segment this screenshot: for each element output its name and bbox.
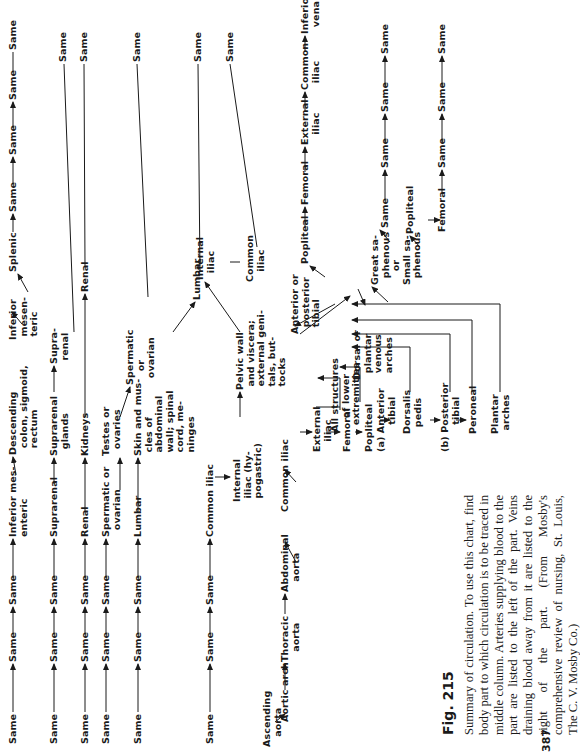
figure-label: Fig. 215	[440, 671, 456, 735]
popliteal-artery: Popliteal	[364, 404, 375, 452]
external-iliac-vein: External iliac	[300, 99, 321, 145]
dorsalis-pedis: Dorsalis pedis	[402, 390, 423, 434]
row1-vein-same-1: Same	[8, 182, 19, 212]
row1-artery-3: Same	[8, 575, 19, 605]
row4-artery-1: Same	[101, 714, 112, 744]
row6-artery-1: Same	[205, 714, 216, 744]
row2-artery-3: Same	[49, 575, 60, 605]
row6-internal-iliac-artery: Internal iliac (hy- pogastric)	[232, 443, 264, 502]
row2-artery-2: Same	[49, 632, 60, 662]
page-number: 387	[540, 729, 553, 752]
aortic-arch: Aortic arch	[280, 662, 291, 722]
posterior-tibial-artery: (b) Posterior tibial	[440, 383, 461, 452]
row6-artery-2: Same	[205, 632, 216, 662]
femoral-vein: Femoral	[300, 161, 311, 205]
row2-suprarenal-glands: Suprarenal glands	[49, 396, 70, 456]
row3-renal-vein: Renal	[80, 261, 91, 292]
row3-renal-artery: Renal	[80, 506, 91, 537]
row1-descending-colon: Descending colon, sigmoid, rectum	[8, 365, 40, 455]
row4-artery-2: Same	[101, 632, 112, 662]
row6-common-iliac-artery: Common iliac	[205, 464, 216, 537]
row4-artery-3: Same	[101, 575, 112, 605]
inferior-vena-cava: Inferior vena cava	[300, 0, 321, 34]
row4-spermatic-vein: Spermatic or ovarian	[125, 330, 157, 385]
figure-caption: Summary of circulation. To use this char…	[462, 495, 580, 735]
row1-artery-1: Same	[8, 714, 19, 744]
anterior-tibial-artery: (a) Anterior tibial	[376, 388, 397, 452]
anterior-posterior-tibial-vein: Anterior or posterior tibial	[290, 274, 322, 334]
saphenous-same-3: Same	[380, 82, 391, 112]
row6-common-iliac-vein: Common iliac	[245, 235, 266, 282]
small-saphenous-same-1: Same	[437, 138, 448, 168]
row6-artery-3: Same	[205, 575, 216, 605]
row1-vein-same-3: Same	[8, 70, 19, 100]
row5-skin-muscles: Skin and mus- cles of abdominal wall; sp…	[133, 379, 196, 456]
row5-vein-same: Same	[193, 32, 204, 62]
row6-vein-same: Same	[225, 32, 236, 62]
great-small-saphenous: Great sa- phenous or Small sa- phenous	[370, 232, 423, 285]
row2-suprarenal-artery: Suprarenal	[49, 477, 60, 537]
small-saphenous-femoral: Femoral	[437, 188, 448, 232]
saphenous-same-2: Same	[380, 138, 391, 168]
row4-vein-same: Same	[132, 32, 143, 62]
row5-lumbar-artery: Lumbar	[133, 496, 144, 537]
row5-artery-3: Same	[133, 575, 144, 605]
row6-pelvic-wall: Pelvic wall and viscera; external geni- …	[235, 310, 288, 390]
row3-vein-same: Same	[79, 32, 90, 62]
row2-vein-same: Same	[58, 32, 69, 62]
plantar-arches-artery: Plantar arches	[490, 394, 511, 434]
row3-artery-2: Same	[80, 632, 91, 662]
popliteal-vein: Popliteal	[300, 216, 311, 264]
small-saphenous-same-2: Same	[437, 82, 448, 112]
abdominal-aorta: Abdominal aorta	[280, 534, 301, 592]
row4-spermatic-artery: Spermatic or ovarian	[101, 467, 122, 537]
row1-vein-same-4: Same	[8, 20, 19, 50]
row3-kidneys: Kidneys	[80, 413, 91, 456]
common-iliac-vein-2: Common iliac	[300, 43, 321, 90]
row3-artery-1: Same	[80, 714, 91, 744]
saphenous-same-4: Same	[380, 24, 391, 54]
row1-vein-same-2: Same	[8, 125, 19, 155]
row4-testes-ovaries: Testes or ovaries	[101, 407, 122, 456]
row1-splenic-vein: Splenic	[8, 232, 19, 272]
small-saphenous-same-3: Same	[437, 24, 448, 54]
row1-inferior-mesenteric-artery: Inferior mes- enteric	[8, 466, 29, 537]
row2-artery-1: Same	[49, 714, 60, 744]
small-saphenous-popliteal: Popliteal	[405, 186, 416, 234]
common-iliac-main: Common iliac	[280, 439, 291, 512]
row6-internal-iliac-vein: Internal iliac	[195, 237, 216, 280]
row5-artery-2: Same	[133, 632, 144, 662]
saphenous-same-1: Same	[380, 198, 391, 228]
row5-artery-1: Same	[133, 714, 144, 744]
peroneal-artery: Peroneal	[468, 386, 479, 434]
dorsal-plantar-venous-arches: Dorsal or plantar venous arches	[352, 330, 394, 380]
thoracic-aorta: Thoracic aorta	[280, 616, 301, 662]
row3-artery-3: Same	[80, 575, 91, 605]
row2-suprarenal-vein: Supra- renal	[49, 328, 70, 364]
row1-inferior-mesenteric-vein: Inferior mesen- teric	[8, 297, 40, 340]
row1-artery-2: Same	[8, 632, 19, 662]
